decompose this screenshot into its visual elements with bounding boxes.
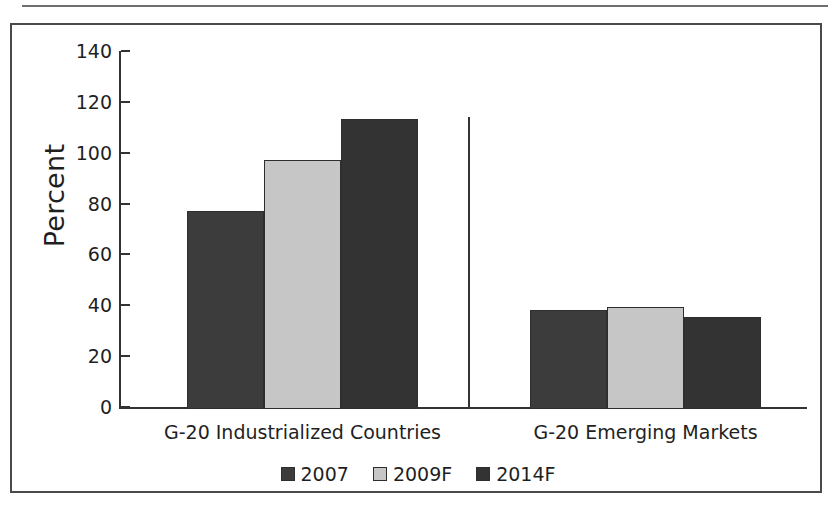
legend-swatch-icon — [373, 467, 387, 481]
legend-item[interactable]: 2014F — [476, 463, 555, 485]
bar-fill — [187, 211, 264, 409]
legend-item[interactable]: 2007 — [281, 463, 349, 485]
bar — [684, 317, 761, 409]
bar-fill — [264, 160, 341, 409]
legend-swatch-icon — [476, 467, 490, 481]
legend-label: 2014F — [496, 463, 555, 485]
bar — [341, 119, 418, 409]
bar-fill — [607, 307, 684, 409]
legend-swatch-icon — [281, 467, 295, 481]
legend-item[interactable]: 2009F — [373, 463, 452, 485]
legend-label: 2007 — [301, 463, 349, 485]
category-label: G-20 Industrialized Countries — [103, 421, 503, 443]
bar-fill — [530, 310, 607, 409]
bar-fill — [341, 119, 418, 409]
chart-plot-area: Percent 020406080100120140 G-20 Industri… — [12, 25, 824, 495]
page-canvas: Percent 020406080100120140 G-20 Industri… — [0, 0, 832, 514]
bar — [264, 160, 341, 409]
legend-label: 2009F — [393, 463, 452, 485]
bar — [187, 211, 264, 409]
bar-fill — [684, 317, 761, 409]
bars-layer — [12, 25, 824, 409]
bar — [530, 310, 607, 409]
bar — [607, 307, 684, 409]
figure-frame: Percent 020406080100120140 G-20 Industri… — [10, 23, 822, 493]
chart-legend: 20072009F2014F — [12, 463, 824, 485]
category-label: G-20 Emerging Markets — [446, 421, 832, 443]
page-top-rule — [22, 5, 828, 7]
